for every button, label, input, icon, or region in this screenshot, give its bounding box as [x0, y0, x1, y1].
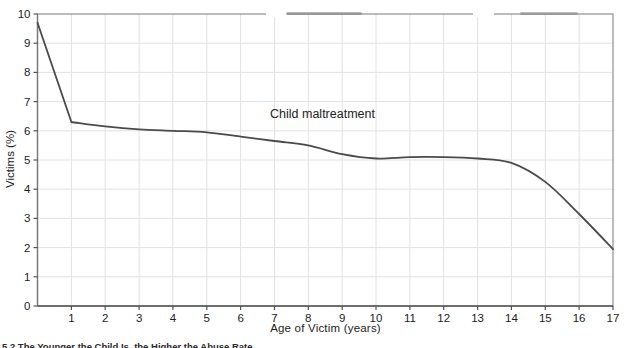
series-annotation-label: Child maltreatment: [270, 107, 375, 121]
y-tick-label: 3: [24, 212, 30, 224]
annotation: Child maltreatment: [270, 107, 375, 121]
y-tick-label: 0: [24, 300, 30, 312]
scan-artifact-streak: [286, 12, 362, 15]
maltreatment-line: [38, 23, 614, 249]
y-tick-label: 4: [24, 183, 31, 195]
y-tick-label: 9: [24, 37, 30, 49]
y-tick-label: 5: [24, 154, 30, 166]
y-tick-label: 1: [24, 271, 30, 283]
scan-artifact-gap: [473, 12, 494, 17]
x-axis-title: Age of Victim (years): [0, 322, 629, 334]
scan-artifact-streak: [520, 12, 578, 15]
y-tick-label: 10: [18, 8, 31, 20]
gridlines: [38, 14, 614, 306]
axis-ticks: [34, 14, 614, 310]
y-axis-title: Victims (%): [4, 130, 16, 188]
figure-child-maltreatment-chart: 1234567891011121314151617012345678910 Ch…: [0, 0, 629, 348]
y-tick-label: 7: [24, 96, 30, 108]
scan-artifact-gap: [266, 12, 287, 17]
y-tick-label: 6: [24, 125, 30, 137]
y-tick-label: 8: [24, 66, 30, 78]
series-line: [38, 23, 614, 249]
y-tick-label: 2: [24, 242, 30, 254]
chart-svg: 1234567891011121314151617012345678910 Ch…: [0, 0, 629, 348]
figure-caption: 5.2 The Younger the Child Is, the Higher…: [2, 341, 253, 348]
